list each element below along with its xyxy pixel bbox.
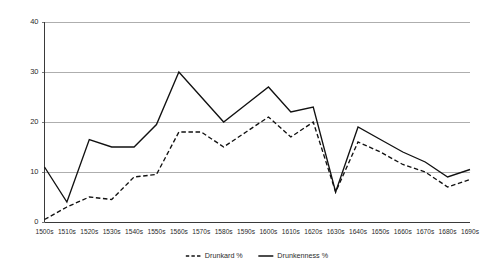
y-tick-label-20: 20 — [30, 117, 38, 126]
x-tick-label-1690s: 1690s — [461, 228, 480, 235]
x-tick-label-1670s: 1670s — [416, 228, 435, 235]
x-tick-label-1530s: 1530s — [103, 228, 122, 235]
x-tick-label-1620s: 1620s — [304, 228, 323, 235]
y-tick-label-30: 30 — [30, 67, 38, 76]
x-tick-label-1650s: 1650s — [371, 228, 390, 235]
x-tick-label-1630s: 1630s — [327, 228, 346, 235]
y-tick-label-0: 0 — [34, 217, 38, 226]
x-tick-label-1660s: 1660s — [394, 228, 413, 235]
x-tick-label-1500s: 1500s — [36, 228, 55, 235]
legend-label: Drunkenness % — [277, 251, 328, 260]
y-tick-label-40: 40 — [30, 17, 38, 26]
x-tick-label-1600s: 1600s — [259, 228, 278, 235]
legend-label: Drunkard % — [205, 251, 244, 260]
x-tick-label-1570s: 1570s — [192, 228, 211, 235]
x-tick-label-1590s: 1590s — [237, 228, 256, 235]
x-tick-label-1580s: 1580s — [215, 228, 234, 235]
x-tick-label-1510s: 1510s — [58, 228, 77, 235]
x-tick-label-1540s: 1540s — [125, 228, 144, 235]
line-chart-figure: 010203040 1500s1510s1520s1530s1540s1550s… — [0, 0, 488, 272]
y-tick-label-10: 10 — [30, 167, 38, 176]
x-tick-label-1550s: 1550s — [147, 228, 166, 235]
x-tick-label-1640s: 1640s — [349, 228, 368, 235]
x-tick-label-1680s: 1680s — [439, 228, 458, 235]
x-tick-label-1610s: 1610s — [282, 228, 301, 235]
x-tick-label-1520s: 1520s — [80, 228, 99, 235]
x-tick-label-1560s: 1560s — [170, 228, 189, 235]
chart-canvas: 010203040 1500s1510s1520s1530s1540s1550s… — [0, 0, 488, 272]
